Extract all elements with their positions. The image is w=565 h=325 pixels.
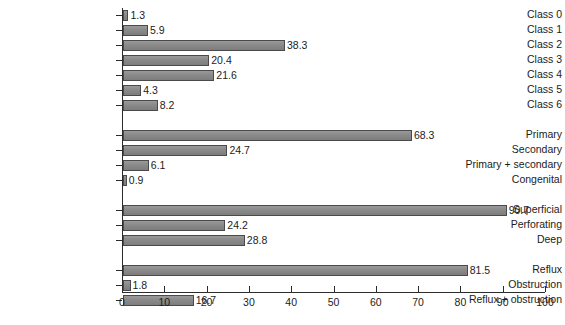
- y-axis-tick: [116, 270, 122, 271]
- x-axis-title: [122, 316, 545, 325]
- bar: [123, 205, 507, 216]
- y-axis-tick: [116, 105, 122, 106]
- bar: [123, 265, 468, 276]
- category-label: Congenital: [444, 173, 562, 185]
- y-axis-tick: [116, 75, 122, 76]
- bar: [123, 100, 158, 111]
- x-axis-tick-label: 50: [314, 296, 354, 308]
- y-axis-tick: [116, 30, 122, 31]
- category-label: Class 4: [444, 68, 562, 80]
- bar-value-label: 90.7: [509, 204, 529, 216]
- bar-value-label: 5.9: [150, 24, 165, 36]
- bar-row: Secondary24.7: [0, 145, 562, 156]
- bar-value-label: 20.4: [211, 54, 231, 66]
- bar-row: Primary68.3: [0, 130, 562, 141]
- x-axis-tick-label: 70: [398, 296, 438, 308]
- bar-row: Class 01.3: [0, 10, 562, 21]
- bar-row: Class 68.2: [0, 100, 562, 111]
- x-axis-tick-label: 40: [271, 296, 311, 308]
- bar: [123, 130, 412, 141]
- category-label: Primary + secondary: [444, 158, 562, 170]
- category-label: Class 3: [444, 53, 562, 65]
- x-axis-tick: [545, 286, 546, 292]
- bar: [123, 280, 131, 291]
- bar: [123, 70, 214, 81]
- bar-value-label: 28.8: [247, 234, 267, 246]
- x-axis-tick: [122, 286, 123, 292]
- y-axis-tick: [116, 180, 122, 181]
- x-axis-tick: [460, 286, 461, 292]
- y-axis-tick: [116, 210, 122, 211]
- bar: [123, 175, 127, 186]
- bar-row: Class 54.3: [0, 85, 562, 96]
- bar: [123, 40, 285, 51]
- bar: [123, 235, 245, 246]
- x-axis-tick-label: 10: [144, 296, 184, 308]
- x-axis-tick: [249, 286, 250, 292]
- x-axis-tick: [164, 286, 165, 292]
- bar-row: Reflux81.5: [0, 265, 562, 276]
- bar-row: Congenital0.9: [0, 175, 562, 186]
- x-axis-tick-label: 80: [440, 296, 480, 308]
- x-axis-tick: [334, 286, 335, 292]
- bar-row: Class 238.3: [0, 40, 562, 51]
- y-axis-tick: [116, 225, 122, 226]
- bar-value-label: 8.2: [160, 99, 175, 111]
- category-label: Secondary: [444, 143, 562, 155]
- bar: [123, 145, 227, 156]
- x-axis-tick-label: 20: [187, 296, 227, 308]
- bar-row: Perforating24.2: [0, 220, 562, 231]
- x-axis-tick: [207, 286, 208, 292]
- category-label: Class 6: [444, 98, 562, 110]
- bar-value-label: 1.3: [130, 9, 145, 21]
- bar: [123, 55, 209, 66]
- bar-row: Deep28.8: [0, 235, 562, 246]
- bar-value-label: 0.9: [129, 174, 144, 186]
- bar-value-label: 38.3: [287, 39, 307, 51]
- bar-value-label: 68.3: [414, 129, 434, 141]
- x-axis-tick: [418, 286, 419, 292]
- bar: [123, 160, 149, 171]
- category-label: Primary: [444, 128, 562, 140]
- x-axis-tick-label: 100: [525, 296, 565, 308]
- bar-value-label: 4.3: [143, 84, 158, 96]
- bar-row: Primary + secondary6.1: [0, 160, 562, 171]
- bar: [123, 10, 128, 21]
- y-axis-tick: [116, 15, 122, 16]
- category-label: Class 1: [444, 23, 562, 35]
- bar-row: Class 320.4: [0, 55, 562, 66]
- bar-value-label: 24.2: [227, 219, 247, 231]
- bar-value-label: 21.6: [216, 69, 236, 81]
- bar-value-label: 81.5: [470, 264, 490, 276]
- y-axis-tick: [116, 240, 122, 241]
- x-axis-tick: [376, 286, 377, 292]
- y-axis-tick: [116, 45, 122, 46]
- bar-row: Class 15.9: [0, 25, 562, 36]
- y-axis-tick: [116, 165, 122, 166]
- category-label: Class 5: [444, 83, 562, 95]
- y-axis-tick: [116, 150, 122, 151]
- x-axis-tick-label: 0: [102, 296, 142, 308]
- x-axis-tick-label: 30: [229, 296, 269, 308]
- category-label: Deep: [444, 233, 562, 245]
- y-axis-tick: [116, 90, 122, 91]
- y-axis-tick: [116, 60, 122, 61]
- bar: [123, 85, 141, 96]
- bar: [123, 220, 225, 231]
- x-axis-tick: [291, 286, 292, 292]
- bar-value-label: 1.8: [133, 279, 148, 291]
- category-label: Class 0: [444, 8, 562, 20]
- bar-row: Obstruction1.8: [0, 280, 562, 291]
- y-axis-tick: [116, 135, 122, 136]
- bar-value-label: 6.1: [151, 159, 166, 171]
- category-label: Class 2: [444, 38, 562, 50]
- bar: [123, 25, 148, 36]
- bar-row: Class 421.6: [0, 70, 562, 81]
- category-label: Perforating: [444, 218, 562, 230]
- bar-value-label: 24.7: [229, 144, 249, 156]
- x-axis-tick-label: 90: [483, 296, 523, 308]
- bar-row: Superficial90.7: [0, 205, 562, 216]
- x-axis-tick-label: 60: [356, 296, 396, 308]
